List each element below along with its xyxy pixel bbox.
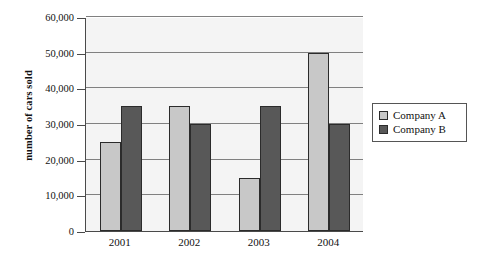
bar-company-a-2004 xyxy=(308,53,329,231)
x-tick-label: 2004 xyxy=(317,236,339,248)
x-tick-label: 2001 xyxy=(109,236,131,248)
y-tick-label: 0 xyxy=(0,227,74,238)
x-tick-label: 2003 xyxy=(248,236,270,248)
y-tick-label: 10,000 xyxy=(0,191,74,202)
legend-item-company-a: Company A xyxy=(379,110,460,121)
legend-swatch-company-b xyxy=(379,125,388,134)
bar-company-b-2003 xyxy=(260,106,281,231)
y-tick-label: 20,000 xyxy=(0,155,74,166)
bar-chart: number of cars sold 010,00020,00030,0004… xyxy=(0,0,477,257)
y-tick-mark xyxy=(77,54,85,55)
y-tick-label: 50,000 xyxy=(0,48,74,59)
y-tick-label: 60,000 xyxy=(0,13,74,24)
bar-company-a-2001 xyxy=(100,142,121,231)
bar-company-b-2002 xyxy=(190,124,211,231)
y-tick-label: 30,000 xyxy=(0,120,74,131)
bar-company-a-2002 xyxy=(169,106,190,231)
bar-company-b-2004 xyxy=(329,124,350,231)
y-tick-mark xyxy=(77,196,85,197)
y-tick-mark xyxy=(77,125,85,126)
gridline xyxy=(86,16,363,17)
legend-item-company-b: Company B xyxy=(379,124,460,135)
y-tick-mark xyxy=(77,89,85,90)
y-tick-mark xyxy=(77,232,85,233)
legend-swatch-company-a xyxy=(379,111,388,120)
plot-area xyxy=(85,18,363,232)
y-tick-mark xyxy=(77,161,85,162)
bar-company-a-2003 xyxy=(239,178,260,232)
legend-label: Company A xyxy=(393,110,446,121)
y-tick-mark xyxy=(77,18,85,19)
bar-company-b-2001 xyxy=(121,106,142,231)
legend: Company ACompany B xyxy=(372,103,467,142)
x-tick-label: 2002 xyxy=(178,236,200,248)
y-tick-label: 40,000 xyxy=(0,84,74,95)
legend-label: Company B xyxy=(393,124,446,135)
